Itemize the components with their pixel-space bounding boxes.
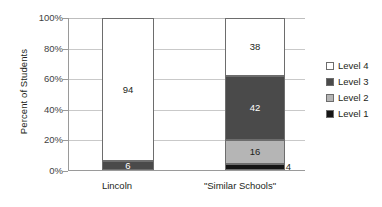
- legend-label-level-3: Level 3: [338, 77, 369, 87]
- bar-segment-similar-schools-level-1[interactable]: 4: [225, 164, 285, 170]
- bar-similar-schools[interactable]: 38 42 16 4: [225, 18, 285, 170]
- legend-swatch-level-2-icon: [326, 94, 334, 102]
- plot-area: 94 6 38 42 16 4: [68, 18, 305, 171]
- bar-segment-similar-schools-level-4[interactable]: 38: [225, 18, 285, 76]
- bar-label-similar-schools-level-1: 4: [286, 162, 291, 172]
- legend-label-level-4: Level 4: [338, 61, 369, 71]
- y-tick-label-80: 80%: [3, 44, 63, 54]
- y-tick-label-40: 40%: [3, 105, 63, 115]
- legend: Level 4 Level 3 Level 2 Level 1: [326, 58, 369, 122]
- y-tick-mark-0: [62, 171, 68, 172]
- bar-lincoln[interactable]: 94 6: [102, 18, 154, 170]
- bar-label-lincoln-level-4: 94: [123, 85, 134, 95]
- legend-swatch-level-1-icon: [326, 110, 334, 118]
- y-tick-label-20: 20%: [3, 136, 63, 146]
- bar-segment-similar-schools-level-3[interactable]: 42: [225, 76, 285, 140]
- legend-item-level-1[interactable]: Level 1: [326, 106, 369, 122]
- bar-segment-lincoln-level-3[interactable]: 6: [102, 161, 154, 170]
- legend-label-level-1: Level 1: [338, 109, 369, 119]
- bar-label-similar-schools-level-2: 16: [250, 147, 261, 157]
- legend-item-level-3[interactable]: Level 3: [326, 74, 369, 90]
- x-axis-label-similar-schools: "Similar Schools": [190, 180, 290, 191]
- bar-segment-lincoln-level-4[interactable]: 94: [102, 18, 154, 161]
- legend-swatch-level-3-icon: [326, 78, 334, 86]
- legend-label-level-2: Level 2: [338, 93, 369, 103]
- y-tick-label-100: 100%: [3, 13, 63, 23]
- x-axis-label-lincoln: Lincoln: [69, 180, 165, 191]
- legend-item-level-2[interactable]: Level 2: [326, 90, 369, 106]
- bar-label-similar-schools-level-3: 42: [250, 103, 261, 113]
- legend-swatch-level-4-icon: [326, 62, 334, 70]
- legend-item-level-4[interactable]: Level 4: [326, 58, 369, 74]
- y-tick-label-60: 60%: [3, 74, 63, 84]
- stacked-bar-chart: Percent of Students 100% 80% 60% 40% 20%…: [0, 0, 382, 207]
- bar-segment-similar-schools-level-2[interactable]: 16: [225, 140, 285, 164]
- bar-label-similar-schools-level-4: 38: [250, 42, 261, 52]
- bar-label-lincoln-level-3: 6: [125, 161, 130, 171]
- y-tick-label-0: 0%: [3, 166, 63, 176]
